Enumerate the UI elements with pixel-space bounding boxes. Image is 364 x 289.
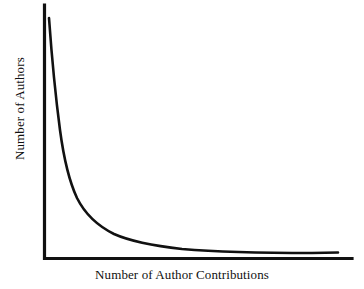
chart-background [0,0,364,289]
chart-figure: Number of Author Contributions Number of… [0,0,364,289]
x-axis-label: Number of Author Contributions [0,268,364,281]
y-axis-label: Number of Authors [13,120,26,160]
plot-area [0,0,364,289]
